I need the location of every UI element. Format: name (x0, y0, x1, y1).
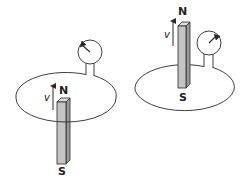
loop-back-arc-right (213, 68, 234, 91)
loop-back-arc (16, 72, 86, 98)
galvanometer-left (78, 40, 102, 76)
south-label-left: S (58, 165, 66, 178)
south-label-right: S (179, 91, 187, 104)
panel-left: v N S (16, 40, 116, 178)
loop-back-arc (135, 65, 204, 90)
figure-canvas: v N S v N S (0, 0, 249, 179)
magnet-side-face (66, 98, 70, 164)
velocity-label-right: v (164, 29, 171, 40)
north-label-right: N (178, 5, 187, 18)
magnet-front-face (57, 102, 66, 164)
magnet-front-face (178, 26, 186, 88)
loop-back-arc-right (94, 76, 116, 99)
velocity-label-left: v (44, 92, 51, 103)
magnet-side-face (186, 22, 190, 88)
bar-magnet-left (57, 98, 70, 164)
north-label-left: N (59, 84, 68, 97)
panel-right: v N S (135, 5, 234, 111)
galvanometer-right (197, 31, 221, 68)
bar-magnet-right (178, 22, 190, 88)
